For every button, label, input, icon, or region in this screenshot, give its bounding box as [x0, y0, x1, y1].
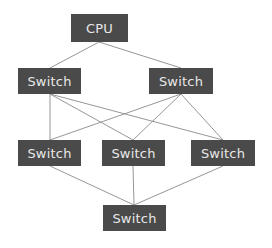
- edge-l2right-bottom: [134, 166, 223, 205]
- edge-cpu-switch-l1-right: [99, 42, 181, 68]
- edge-cpu-switch-l1-left: [50, 42, 99, 68]
- edge-l1right-l2left: [50, 94, 181, 140]
- switch-label: Switch: [27, 74, 71, 89]
- switch-label: Switch: [27, 146, 71, 161]
- switch-node-level2-middle: Switch: [102, 140, 165, 166]
- edge-l1left-l2mid: [50, 94, 133, 140]
- edge-l1right-l2right: [181, 94, 223, 140]
- switch-node-level2-left: Switch: [18, 140, 81, 166]
- cpu-label: CPU: [86, 21, 113, 36]
- switch-node-level1-left: Switch: [18, 68, 81, 94]
- edge-l2mid-bottom: [133, 166, 134, 205]
- cpu-node: CPU: [71, 14, 128, 42]
- edge-l2left-bottom: [50, 166, 134, 205]
- edge-l1right-l2mid: [133, 94, 181, 140]
- switch-node-level2-right: Switch: [191, 140, 255, 166]
- switch-label: Switch: [159, 74, 203, 89]
- switch-label: Switch: [111, 146, 155, 161]
- switch-label: Switch: [201, 146, 245, 161]
- edge-l1left-l2right: [50, 94, 223, 140]
- switch-node-level1-right: Switch: [149, 68, 213, 94]
- switch-node-bottom: Switch: [103, 205, 166, 231]
- switch-label: Switch: [112, 211, 156, 226]
